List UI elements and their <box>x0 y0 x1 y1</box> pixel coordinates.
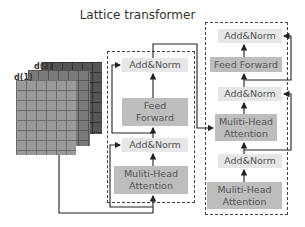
connection-wires <box>0 0 305 227</box>
